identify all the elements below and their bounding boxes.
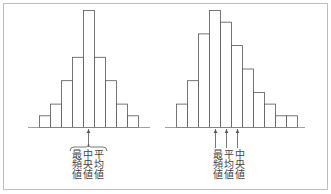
histogram-bar: [254, 92, 265, 127]
histogram-bar: [210, 11, 221, 128]
histogram-bar: [243, 69, 254, 128]
right-label-mode: 最頻値: [211, 149, 222, 179]
histogram-bar: [221, 22, 232, 127]
histogram-bar: [106, 81, 117, 128]
histogram-bar: [199, 34, 210, 128]
histogram-bar: [62, 81, 73, 128]
histogram-bar: [84, 11, 95, 128]
left-label-mean: 平均値: [92, 149, 103, 179]
histogram-bar: [51, 104, 62, 127]
histogram-bar: [177, 104, 188, 127]
histogram-bar: [232, 46, 243, 128]
mean-arrow-icon-head: [225, 129, 229, 133]
histogram-bar: [188, 81, 199, 128]
histogram-bar: [40, 116, 51, 128]
mode-arrow-icon-head: [214, 129, 218, 133]
histogram-bar: [287, 116, 298, 128]
histogram-bar: [276, 116, 287, 128]
left-histogram: [28, 11, 150, 128]
histogram-bar: [265, 104, 276, 127]
right-label-mean: 平均値: [222, 149, 233, 179]
histogram-bar: [95, 57, 106, 127]
median-arrow-icon-head: [236, 129, 240, 133]
left-arrow-icon-head: [87, 129, 91, 133]
right-label-median: 中央値: [233, 149, 244, 179]
histogram-bar: [117, 104, 128, 127]
left-label-mode: 最頻値: [70, 149, 81, 179]
right-histogram: [165, 11, 305, 128]
left-label-median: 中央値: [81, 149, 92, 179]
histogram-comparison: [0, 0, 331, 194]
histogram-bar: [73, 57, 84, 127]
histogram-bar: [128, 116, 139, 128]
